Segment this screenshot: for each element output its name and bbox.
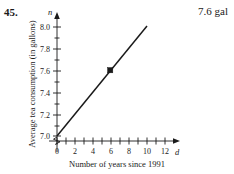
data-series-line (57, 26, 147, 136)
y-axis-symbol: n (48, 7, 52, 17)
data-point-marker (108, 68, 113, 73)
x-tick-label: 10 (143, 147, 151, 156)
y-tick-label: 7.0 (40, 132, 50, 141)
x-tick-label: 4 (91, 147, 95, 156)
x-tick-label: 8 (127, 147, 131, 156)
y-tick-label: 7.8 (40, 45, 50, 54)
y-tick-label: 7.2 (40, 111, 50, 120)
x-tick-labels: 0 2 4 6 8 10 12 (55, 147, 169, 156)
x-axis-arrow (173, 138, 180, 144)
y-axis-arrow (54, 12, 60, 19)
x-tick-label: 12 (161, 147, 169, 156)
y-tick-label: 7.6 (40, 67, 50, 76)
y-tick-label: 7.4 (40, 89, 50, 98)
x-axis (49, 138, 180, 144)
x-tick-label: 2 (73, 147, 77, 156)
x-tick-label: 6 (109, 147, 113, 156)
y-axis-title: Average tea consumption (in gallons) (27, 20, 37, 147)
x-tick-label: 0 (55, 147, 59, 156)
x-axis-title: Number of years since 1991 (69, 159, 165, 169)
x-axis-symbol: d (175, 147, 180, 157)
y-tick-labels: 8.0 7.8 7.6 7.4 7.2 7.0 (40, 23, 50, 141)
figure-container: 45. 7.6 gal (0, 0, 234, 174)
line-chart: 8.0 7.8 7.6 7.4 7.2 7.0 0 2 4 6 8 10 12 … (0, 0, 234, 174)
y-tick-label: 8.0 (40, 23, 50, 32)
